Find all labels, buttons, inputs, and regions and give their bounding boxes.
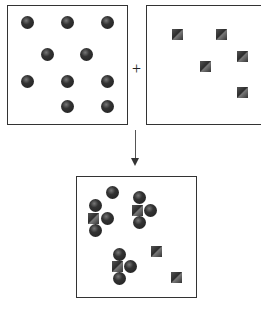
cube-atom-icon — [88, 213, 99, 224]
sphere-atom-icon — [124, 260, 137, 273]
sphere-atom-icon — [101, 16, 114, 29]
sphere-atom-icon — [80, 48, 93, 61]
cube-atom-icon — [172, 29, 183, 40]
plus-sign: + — [132, 61, 141, 77]
sphere-atom-icon — [41, 48, 54, 61]
sphere-atom-icon — [133, 191, 146, 204]
cube-atom-icon — [200, 61, 211, 72]
sphere-atom-icon — [133, 216, 146, 229]
sphere-atom-icon — [21, 16, 34, 29]
cube-atom-icon — [216, 29, 227, 40]
cube-atom-icon — [132, 205, 143, 216]
sphere-atom-icon — [101, 100, 114, 113]
cube-atom-icon — [237, 51, 248, 62]
cube-atom-icon — [171, 272, 182, 283]
sphere-atom-icon — [144, 204, 157, 217]
cube-atom-icon — [151, 246, 162, 257]
sphere-atom-icon — [89, 224, 102, 237]
reaction-arrow-line — [135, 130, 136, 160]
sphere-atom-icon — [101, 212, 114, 225]
cube-atom-icon — [237, 87, 248, 98]
sphere-atom-icon — [89, 199, 102, 212]
sphere-atom-icon — [21, 75, 34, 88]
sphere-atom-icon — [61, 16, 74, 29]
cube-atom-icon — [112, 261, 123, 272]
sphere-atom-icon — [113, 248, 126, 261]
sphere-atom-icon — [61, 75, 74, 88]
sphere-atom-icon — [113, 272, 126, 285]
sphere-atom-icon — [101, 75, 114, 88]
reaction-arrow-head-icon — [131, 158, 139, 166]
sphere-atom-icon — [106, 186, 119, 199]
sphere-atom-icon — [61, 100, 74, 113]
